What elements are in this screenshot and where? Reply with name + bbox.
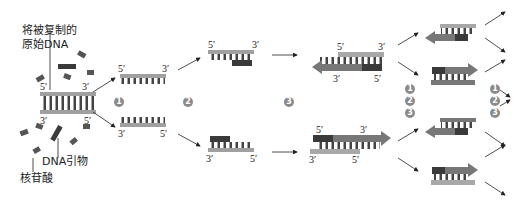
label-3prime: 3′: [333, 74, 340, 84]
step-marker-2: 2: [405, 96, 415, 106]
label-5prime: 5′: [160, 129, 167, 139]
product-4: [431, 163, 478, 185]
label-5prime: 5′: [316, 125, 323, 135]
diagram-canvas: [0, 0, 523, 210]
label-3prime: 3′: [378, 42, 385, 52]
label-3prime: 3′: [82, 82, 89, 92]
step-marker-1: 1: [405, 84, 415, 94]
template-dna-label-line2: 原始DNA: [22, 38, 68, 51]
step-marker-3: 3: [284, 97, 294, 107]
nucleotide-label: 核苷酸: [20, 172, 53, 185]
step-marker-1: 1: [114, 97, 124, 107]
step-marker-2: 2: [490, 96, 500, 106]
label-5prime: 5′: [374, 74, 381, 84]
template-dna-label-line1: 将被复制的: [22, 24, 77, 37]
primer-label: DNA引物: [42, 155, 88, 168]
label-5prime: 5′: [84, 116, 91, 126]
step-marker-1: 1: [490, 84, 500, 94]
label-5prime: 5′: [337, 42, 344, 52]
product-2: [431, 63, 478, 85]
separated-bottom-strand: [120, 117, 166, 127]
step-marker-2: 2: [183, 97, 193, 107]
extended-top: [312, 52, 384, 74]
label-5prime: 5′: [352, 155, 359, 165]
label-3prime: 3′: [309, 155, 316, 165]
annealed-top: [208, 50, 254, 66]
label-3prime: 3′: [360, 125, 367, 135]
product-3: [425, 118, 476, 138]
annealed-bottom: [208, 136, 254, 152]
label-3prime: 3′: [40, 116, 47, 126]
step-marker-3: 3: [490, 108, 500, 118]
label-5prime: 5′: [208, 40, 215, 50]
step-marker-3: 3: [405, 108, 415, 118]
label-5prime: 5′: [118, 64, 125, 74]
product-1: [425, 24, 476, 44]
label-3prime: 3′: [206, 154, 213, 164]
label-5prime: 5′: [40, 82, 47, 92]
label-5prime: 5′: [250, 154, 257, 164]
original-dna: [40, 92, 96, 114]
label-3prime: 3′: [118, 129, 125, 139]
label-3prime: 3′: [252, 40, 259, 50]
label-3prime: 3′: [162, 64, 169, 74]
separated-top-strand: [120, 74, 166, 84]
